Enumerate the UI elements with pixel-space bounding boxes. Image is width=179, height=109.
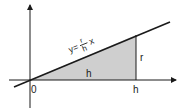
- equation-y: y=: [67, 42, 80, 55]
- cone-triangle-diagram: 0 h h r y= r h x: [0, 0, 179, 109]
- base-h-label: h: [86, 68, 92, 79]
- height-r-label: r: [140, 52, 144, 63]
- origin-label: 0: [31, 84, 37, 95]
- equation-denominator: h: [81, 44, 89, 54]
- x-axis-h-label: h: [133, 84, 139, 95]
- equation-numerator: r: [79, 36, 84, 44]
- equation-x: x: [87, 35, 95, 46]
